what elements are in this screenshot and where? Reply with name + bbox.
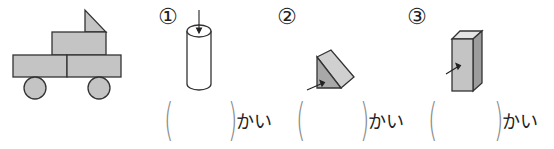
unit-label-3: かい bbox=[502, 113, 538, 131]
truck-figure bbox=[13, 10, 121, 99]
rectangular-prism-figure bbox=[452, 31, 482, 91]
question-number-1: ① bbox=[158, 6, 178, 28]
truck-wheel-left bbox=[24, 77, 46, 99]
cylinder-figure bbox=[187, 25, 211, 90]
truck-body-left-rectangle bbox=[13, 55, 67, 77]
unit-label-1: かい bbox=[236, 113, 272, 131]
answer-blank-2[interactable] bbox=[308, 100, 360, 140]
arrow-icon-cylinder bbox=[197, 10, 202, 33]
paren-open-2: ( bbox=[296, 98, 305, 142]
truck-body-right-rectangle bbox=[67, 55, 121, 77]
truck-cab-rectangle bbox=[52, 32, 106, 55]
truck-triangle bbox=[85, 10, 106, 32]
paren-open-3: ( bbox=[428, 98, 437, 142]
unit-label-2: かい bbox=[368, 113, 404, 131]
answer-blank-3[interactable] bbox=[440, 100, 492, 140]
paren-open-1: ( bbox=[164, 98, 173, 142]
question-number-2: ② bbox=[277, 6, 297, 28]
question-number-3: ③ bbox=[407, 6, 427, 28]
answer-blank-1[interactable] bbox=[176, 100, 228, 140]
truck-wheel-right bbox=[88, 77, 110, 99]
